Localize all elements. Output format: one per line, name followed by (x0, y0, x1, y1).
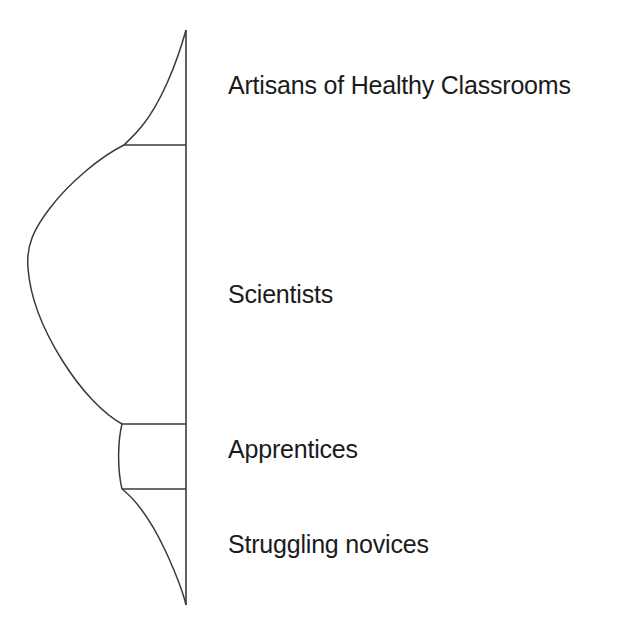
band-label-artisans: Artisans of Healthy Classrooms (228, 73, 571, 98)
band-label-novices: Struggling novices (228, 532, 429, 557)
band-label-scientists: Scientists (228, 282, 333, 307)
band-label-apprentices: Apprentices (228, 437, 358, 462)
distribution-figure: Artisans of Healthy Classrooms Scientist… (0, 0, 642, 631)
distribution-curve (28, 30, 186, 605)
